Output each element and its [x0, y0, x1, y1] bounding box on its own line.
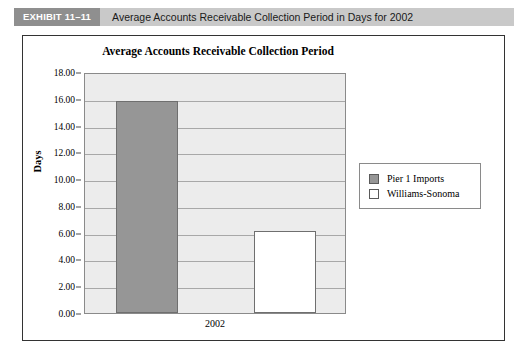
- y-axis-tick-label: 8.00: [58, 202, 75, 212]
- y-axis-tick-mark: [76, 73, 81, 74]
- y-axis-tick-mark: [76, 287, 81, 288]
- legend-item-williams-sonoma[interactable]: Williams-Sonoma: [369, 186, 474, 201]
- y-axis: 18.0016.0014.0012.0010.008.006.004.002.0…: [23, 73, 81, 314]
- plot-area: [84, 73, 346, 314]
- bar-pier-1-imports[interactable]: [116, 101, 178, 313]
- y-axis-tick-label: 0.00: [58, 309, 75, 319]
- legend-label-williams-sonoma: Williams-Sonoma: [379, 188, 459, 199]
- y-axis-tick-mark: [76, 233, 81, 234]
- y-axis-tick-mark: [76, 99, 81, 100]
- y-axis-tick-label: 10.00: [54, 175, 75, 185]
- exhibit-number-badge: EXHIBIT 11–11: [14, 8, 100, 26]
- exhibit-header: EXHIBIT 11–11 Average Accounts Receivabl…: [14, 8, 514, 26]
- legend-label-pier-1-imports: Pier 1 Imports: [379, 173, 444, 184]
- exhibit-title: Average Accounts Receivable Collection P…: [100, 11, 413, 23]
- x-axis-category-label: 2002: [84, 318, 346, 329]
- chart-title: Average Accounts Receivable Collection P…: [63, 45, 373, 57]
- y-axis-tick-label: 6.00: [58, 229, 75, 239]
- y-axis-tick-label: 4.00: [58, 255, 75, 265]
- y-axis-tick-mark: [76, 260, 81, 261]
- bar-williams-sonoma[interactable]: [254, 231, 316, 313]
- y-axis-tick-mark: [76, 206, 81, 207]
- y-axis-tick-mark: [76, 153, 81, 154]
- y-axis-tick-label: 2.00: [58, 282, 75, 292]
- y-axis-tick-label: 12.00: [54, 148, 75, 158]
- y-axis-tick-label: 14.00: [54, 122, 75, 132]
- y-axis-tick-label: 18.00: [54, 68, 75, 78]
- y-axis-tick-label: 16.00: [54, 95, 75, 105]
- y-axis-tick-mark: [76, 314, 81, 315]
- y-axis-tick-mark: [76, 126, 81, 127]
- legend-swatch-pier-1-imports: [369, 174, 379, 184]
- chart-legend: Pier 1 Imports Williams-Sonoma: [359, 163, 481, 209]
- legend-swatch-williams-sonoma: [369, 189, 379, 199]
- legend-item-pier-1-imports[interactable]: Pier 1 Imports: [369, 171, 474, 186]
- y-axis-tick-mark: [76, 180, 81, 181]
- chart-container: Average Accounts Receivable Collection P…: [22, 35, 505, 341]
